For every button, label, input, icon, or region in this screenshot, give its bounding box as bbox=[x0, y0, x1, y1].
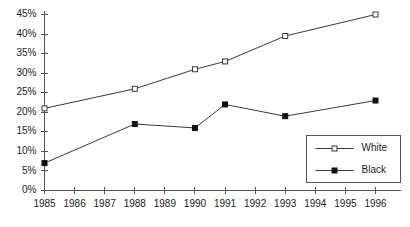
y-tick-label: 15% bbox=[16, 125, 36, 136]
y-tick-label: 20% bbox=[16, 106, 36, 117]
x-tick-label: 1991 bbox=[214, 198, 237, 209]
legend-swatch-marker bbox=[332, 146, 337, 151]
x-tick-label: 1993 bbox=[274, 198, 297, 209]
y-tick-label: 0% bbox=[22, 184, 37, 195]
data-point-white-1991 bbox=[223, 59, 228, 64]
data-point-black-1991 bbox=[223, 102, 228, 107]
data-point-white-1990 bbox=[192, 67, 197, 72]
x-tick-label: 1989 bbox=[154, 198, 177, 209]
data-point-black-1985 bbox=[42, 161, 47, 166]
data-point-black-1993 bbox=[283, 114, 288, 119]
y-tick-label: 5% bbox=[22, 165, 37, 176]
x-tick-label: 1992 bbox=[244, 198, 267, 209]
x-tick-label: 1996 bbox=[364, 198, 387, 209]
x-tick-label: 1985 bbox=[33, 198, 56, 209]
x-tick-label: 1995 bbox=[334, 198, 357, 209]
chart-legend[interactable]: WhiteBlack bbox=[307, 136, 401, 183]
data-point-white-1996 bbox=[373, 12, 378, 17]
series-line-white bbox=[45, 15, 376, 109]
data-point-white-1985 bbox=[42, 106, 47, 111]
y-tick-label: 45% bbox=[16, 8, 36, 19]
y-tick-label: 30% bbox=[16, 67, 36, 78]
y-tick-label: 35% bbox=[16, 47, 36, 58]
data-point-white-1993 bbox=[283, 34, 288, 39]
y-tick-label: 10% bbox=[16, 145, 36, 156]
line-chart: 0%5%10%15%20%25%30%35%40%45% 19851986198… bbox=[0, 0, 410, 227]
data-point-black-1988 bbox=[132, 122, 137, 127]
x-tick-label: 1990 bbox=[184, 198, 207, 209]
y-tick-label: 40% bbox=[16, 28, 36, 39]
x-tick-label: 1987 bbox=[94, 198, 117, 209]
legend-label: White bbox=[362, 142, 388, 153]
data-point-black-1996 bbox=[373, 98, 378, 103]
y-axis-ticks: 0%5%10%15%20%25%30%35%40%45% bbox=[16, 8, 48, 195]
x-tick-label: 1994 bbox=[304, 198, 327, 209]
x-tick-label: 1988 bbox=[124, 198, 147, 209]
y-tick-label: 25% bbox=[16, 86, 36, 97]
data-point-white-1988 bbox=[132, 86, 137, 91]
chart-container: 0%5%10%15%20%25%30%35%40%45% 19851986198… bbox=[0, 0, 410, 227]
x-tick-label: 1986 bbox=[63, 198, 86, 209]
legend-swatch-marker bbox=[332, 168, 337, 173]
data-point-black-1990 bbox=[192, 125, 197, 130]
legend-label: Black bbox=[362, 164, 387, 175]
